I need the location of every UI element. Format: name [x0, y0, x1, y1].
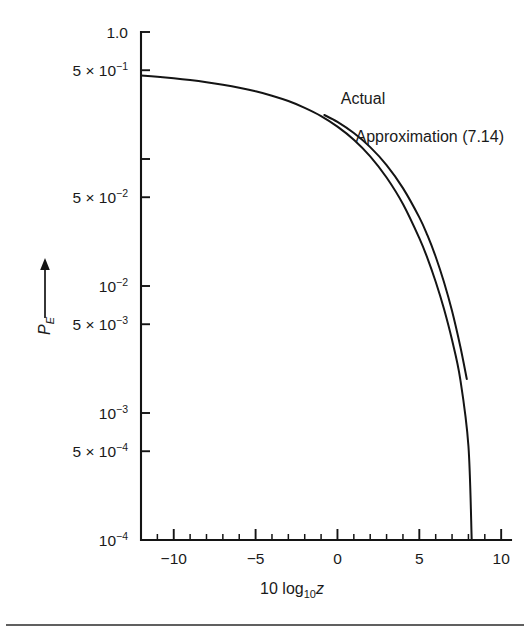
x-tick-label: 5 [415, 550, 424, 567]
y-tick-label: 5 × 10−3 [72, 314, 128, 333]
x-tick-label: 0 [333, 550, 342, 567]
axes-group [141, 32, 511, 540]
up-arrow-head-icon [40, 258, 50, 270]
y-tick-label: 10−4 [99, 530, 128, 549]
curve-label-approximation: Approximation (7.14) [355, 128, 504, 145]
figure-root: 1.05 × 10−15 × 10−210−25 × 10−310−35 × 1… [0, 0, 530, 635]
curve-label-actual: Actual [341, 90, 385, 107]
error-probability-chart: 1.05 × 10−15 × 10−210−25 × 10−310−35 × 1… [0, 0, 530, 635]
y-axis-ticks [141, 32, 150, 540]
y-tick-label: 10−3 [99, 403, 128, 422]
axis-lines [141, 32, 511, 540]
y-axis-title: PE [36, 316, 56, 335]
x-axis-tick-labels: −10−50510 [161, 550, 511, 567]
y-tick-label: 10−2 [99, 276, 128, 295]
y-tick-label: 5 × 10−1 [72, 60, 128, 79]
y-axis-tick-labels: 1.05 × 10−15 × 10−210−25 × 10−310−35 × 1… [72, 24, 128, 549]
x-tick-label: 10 [493, 550, 511, 567]
y-tick-label: 1.0 [106, 24, 128, 41]
x-axis-title: 10 log10z [260, 580, 324, 600]
y-tick-label: 5 × 10−2 [72, 187, 128, 206]
y-axis-title-group: PE [36, 258, 56, 335]
x-tick-label: −10 [161, 550, 188, 567]
x-tick-label: −5 [247, 550, 265, 567]
curve-approximation [324, 115, 466, 379]
y-tick-label: 5 × 10−4 [72, 441, 128, 460]
